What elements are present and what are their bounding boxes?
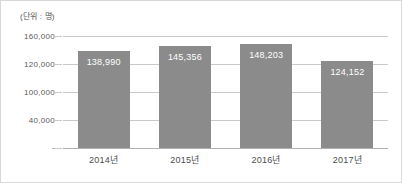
- bar-value-label: 124,152: [321, 67, 373, 77]
- unit-caption: (단위 : 명): [20, 10, 55, 21]
- y-axis: 160,000 120,000 100,000 40,000 -: [1, 36, 59, 148]
- x-tick-label: 2016년: [226, 153, 307, 166]
- tick-stub: [54, 120, 62, 121]
- bar[interactable]: 124,152: [321, 61, 373, 148]
- y-tick-label: 160,000: [24, 32, 55, 41]
- x-tick-label: 2017년: [307, 153, 388, 166]
- y-tick-label: 40,000: [29, 116, 55, 125]
- x-axis: 2014년 2015년 2016년 2017년: [63, 153, 388, 173]
- plot-area: 138,990 145,356 148,203 124,152: [63, 36, 388, 148]
- bar-chart-figure: (단위 : 명) 160,000 120,000 100,000 40,000 …: [0, 0, 402, 183]
- y-tick-label: 100,000: [24, 88, 55, 97]
- x-tick-label: 2014년: [63, 153, 144, 166]
- bar-group: 148,203: [226, 36, 307, 148]
- bar-series: 138,990 145,356 148,203 124,152: [63, 36, 388, 148]
- bar-value-label: 145,356: [159, 52, 211, 62]
- bar-group: 138,990: [63, 36, 144, 148]
- axis-baseline: [63, 148, 388, 149]
- x-tick-label: 2015년: [144, 153, 225, 166]
- bar-group: 145,356: [144, 36, 225, 148]
- tick-stub: [54, 64, 62, 65]
- bar-value-label: 138,990: [78, 57, 130, 67]
- bar[interactable]: 138,990: [78, 51, 130, 148]
- tick-stub: [54, 36, 62, 37]
- bar[interactable]: 148,203: [240, 44, 292, 148]
- y-tick-label: 120,000: [24, 60, 55, 69]
- tick-stub: [54, 148, 62, 149]
- bar[interactable]: 145,356: [159, 46, 211, 148]
- tick-stub: [54, 92, 62, 93]
- bar-group: 124,152: [307, 36, 388, 148]
- bar-value-label: 148,203: [240, 50, 292, 60]
